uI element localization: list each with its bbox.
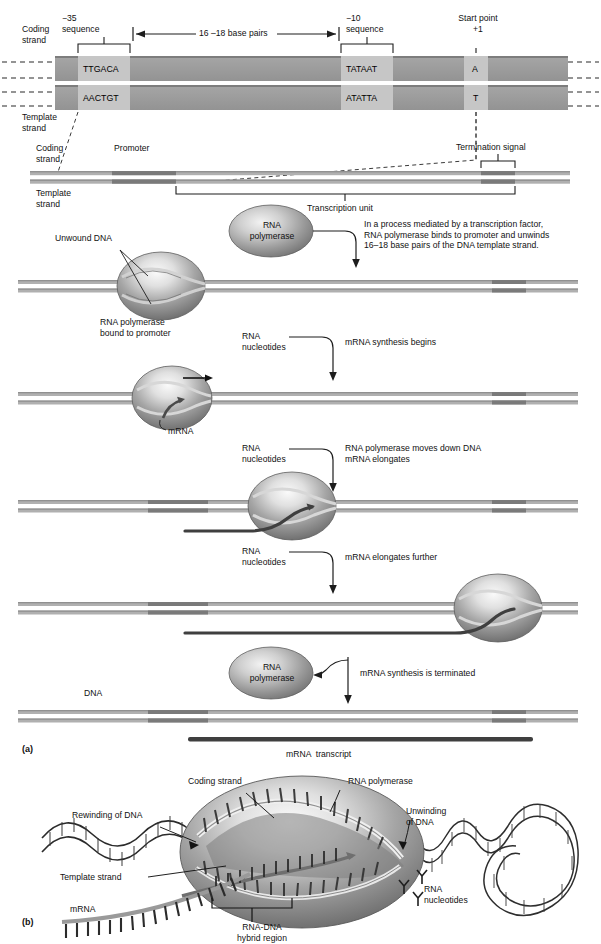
promoter-coding-strand-label: Coding strand bbox=[22, 24, 49, 45]
gene-map-graphics bbox=[30, 154, 570, 201]
step-elongation-1-description: RNA polymerase moves down DNA mRNA elong… bbox=[345, 443, 481, 464]
minus10-sequence-label: −10 sequence bbox=[346, 13, 383, 34]
base-pair-spacing-label: 16 –18 base pairs bbox=[199, 28, 268, 39]
closeup-graphics bbox=[42, 776, 578, 938]
closeup-rna-nucleotides-label: RNA nucleotides bbox=[424, 884, 468, 905]
polymerase-bound-label: RNA polymerase bound to promoter bbox=[100, 317, 171, 338]
step-binding-reagent-label: RNA polymerase bbox=[239, 220, 305, 241]
step-elongation-2-graphics bbox=[18, 552, 578, 642]
closeup-hybrid-region-label: RNA-DNA hybrid region bbox=[224, 922, 300, 943]
mrna-transcript-label: mRNA transcript bbox=[286, 749, 351, 760]
promoter-label: Promoter bbox=[114, 143, 150, 154]
closeup-mrna-label: mRNA bbox=[70, 904, 95, 915]
gene-template-strand-label: Template strand bbox=[36, 188, 71, 209]
start-point-label: Start point +1 bbox=[452, 13, 504, 34]
step-elongation-1-graphics bbox=[18, 449, 578, 540]
closeup-rewinding-label: Rewinding of DNA bbox=[72, 810, 143, 821]
coding-minus35-sequence: TTGACA bbox=[83, 64, 119, 74]
termination-signal-label: Termination signal bbox=[456, 142, 526, 153]
template-minus10-sequence: ATATTA bbox=[346, 93, 377, 103]
panel-a-tag: (a) bbox=[22, 744, 33, 754]
step-elongation-2-description: mRNA elongates further bbox=[345, 552, 437, 563]
closeup-unwinding-label: Unwinding of DNA bbox=[406, 806, 446, 827]
dna-label: DNA bbox=[84, 688, 102, 699]
promoter-map-graphics bbox=[2, 27, 599, 182]
minus35-sequence-label: −35 sequence bbox=[62, 13, 99, 34]
coding-start-base: A bbox=[472, 64, 478, 74]
step-elongation-1-reagent-label: RNA nucleotides bbox=[242, 443, 286, 464]
step-initiation-description: mRNA synthesis begins bbox=[345, 337, 436, 348]
closeup-template-strand-label: Template strand bbox=[60, 872, 121, 883]
gene-coding-strand-label: Coding strand bbox=[36, 143, 63, 164]
panel-b-tag: (b) bbox=[22, 917, 34, 927]
coding-minus10-sequence: TATAAT bbox=[346, 64, 377, 74]
step-termination-reagent-label: RNA polymerase bbox=[239, 662, 305, 683]
step-initiation-graphics bbox=[18, 337, 578, 430]
transcription-unit-label: Transcription unit bbox=[307, 203, 373, 214]
closeup-rna-polymerase-label: RNA polymerase bbox=[348, 776, 413, 787]
promoter-template-strand-label: Template strand bbox=[22, 112, 57, 133]
step-binding-description: In a process mediated by a transcription… bbox=[364, 219, 549, 251]
step-initiation-reagent-label: RNA nucleotides bbox=[242, 331, 286, 352]
template-minus35-sequence: AACTGT bbox=[83, 93, 119, 103]
closeup-coding-strand-label: Coding strand bbox=[188, 776, 242, 787]
dna-helix-left bbox=[42, 821, 190, 860]
step-termination-description: mRNA synthesis is terminated bbox=[360, 668, 475, 679]
template-start-base: T bbox=[473, 93, 478, 103]
figure-transcription: Coding strand Template strand −35 sequen… bbox=[0, 0, 601, 944]
unwound-dna-label: Unwound DNA bbox=[55, 233, 112, 244]
step-elongation-2-reagent-label: RNA nucleotides bbox=[242, 546, 286, 567]
mrna-nascent-label: mRNA bbox=[168, 426, 193, 437]
